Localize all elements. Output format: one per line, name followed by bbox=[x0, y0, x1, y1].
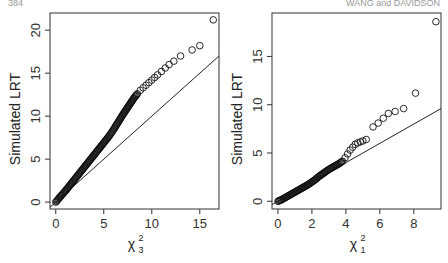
y-tick-label: 20 bbox=[28, 23, 43, 37]
qq-plot-chi3: 05101520Simulated LRT051015χ23 bbox=[7, 13, 219, 255]
x-tick-label: 15 bbox=[193, 216, 207, 231]
y-axis-label: Simulated LRT bbox=[229, 72, 245, 165]
y-tick-label: 5 bbox=[28, 156, 43, 163]
page-number: 384 bbox=[8, 0, 23, 8]
y-tick-label: 10 bbox=[28, 109, 43, 123]
x-axis-label: χ bbox=[350, 236, 358, 252]
y-tick-label: 10 bbox=[250, 97, 265, 111]
x-tick-label: 8 bbox=[410, 216, 417, 231]
data-point bbox=[412, 90, 419, 97]
x-axis-label-superscript: 2 bbox=[361, 233, 366, 243]
x-axis-label-superscript: 2 bbox=[139, 233, 144, 243]
data-point bbox=[392, 108, 399, 115]
data-points bbox=[52, 17, 216, 206]
running-header: WANG and DAVIDSON bbox=[346, 0, 440, 8]
x-tick-label: 2 bbox=[308, 216, 315, 231]
data-point bbox=[375, 120, 382, 127]
x-tick-label: 0 bbox=[274, 216, 281, 231]
data-point bbox=[162, 65, 169, 72]
data-point bbox=[196, 42, 203, 49]
data-points bbox=[275, 18, 440, 204]
x-axis-label-subscript: 1 bbox=[361, 245, 366, 255]
reference-line bbox=[50, 56, 219, 207]
x-axis-label-subscript: 3 bbox=[139, 245, 144, 255]
data-point bbox=[171, 58, 178, 65]
qq-plot-chi1: 051015Simulated LRT02468χ21 bbox=[229, 13, 441, 255]
y-axis-label: Simulated LRT bbox=[7, 72, 23, 165]
x-tick-label: 6 bbox=[376, 216, 383, 231]
data-point bbox=[385, 110, 392, 117]
data-point bbox=[433, 18, 440, 25]
y-tick-label: 5 bbox=[250, 149, 265, 156]
data-point bbox=[177, 53, 184, 60]
data-point bbox=[400, 105, 407, 112]
x-tick-label: 10 bbox=[145, 216, 159, 231]
data-point bbox=[158, 68, 165, 75]
x-tick-label: 4 bbox=[342, 216, 349, 231]
y-tick-label: 0 bbox=[250, 198, 265, 205]
plot-frame bbox=[272, 13, 441, 209]
data-point bbox=[210, 17, 217, 24]
data-point bbox=[166, 61, 173, 68]
y-tick-label: 15 bbox=[28, 66, 43, 80]
y-tick-label: 0 bbox=[28, 199, 43, 206]
data-point bbox=[189, 47, 196, 54]
qq-plots: 384 WANG and DAVIDSON 05101520Simulated … bbox=[0, 0, 448, 263]
x-tick-label: 5 bbox=[100, 216, 107, 231]
data-point bbox=[380, 115, 387, 122]
x-tick-label: 0 bbox=[52, 216, 59, 231]
y-tick-label: 15 bbox=[250, 49, 265, 63]
x-axis-label: χ bbox=[128, 236, 136, 252]
